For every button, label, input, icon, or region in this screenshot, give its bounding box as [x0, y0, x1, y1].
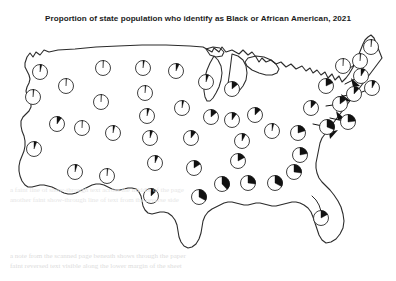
state-pie-me[interactable]: Maine: 2% — [364, 40, 379, 55]
state-pie-ar[interactable]: Arkansas: 16% — [187, 161, 202, 176]
pie-wedge-nc — [300, 148, 307, 156]
state-pie-wv[interactable]: West Virginia: 4% — [265, 124, 280, 139]
state-pie-ct[interactable]: Connecticut: 12% — [347, 87, 362, 102]
state-pie-al[interactable]: Alabama: 27% — [241, 176, 256, 191]
state-pie-az[interactable]: Arizona: 5% — [68, 165, 83, 180]
state-pie-ny[interactable]: New York: 18% — [319, 79, 334, 94]
state-pie-ri[interactable]: Rhode Island: 8% — [365, 81, 380, 96]
state-pie-wy[interactable]: Wyoming: 1% — [94, 95, 109, 110]
pie-wedge-al — [248, 176, 256, 184]
state-pie-pa[interactable]: Pennsylvania: 12% — [304, 101, 319, 116]
state-pie-mo[interactable]: Missouri: 11% — [184, 131, 199, 146]
state-pie-de[interactable]: Delaware: 23% — [341, 115, 356, 130]
state-pie-in[interactable]: Indiana: 10% — [225, 113, 240, 128]
us-map-figure: Proportion of state population who ident… — [0, 0, 396, 281]
coastal-detail — [312, 196, 321, 211]
page-title: Proportion of state population who ident… — [0, 13, 396, 24]
state-pie-co[interactable]: Colorado: 4% — [106, 126, 121, 141]
state-pie-mn[interactable]: Minnesota: 7% — [169, 64, 184, 79]
state-pie-nd[interactable]: North Dakota: 3% — [136, 61, 151, 76]
state-pie-markers-group: Washington: 4%Oregon: 2%California: 6%Ne… — [26, 40, 380, 226]
state-pie-ma[interactable]: Massachusetts: 9% — [354, 69, 369, 84]
state-pie-il[interactable]: Illinois: 14% — [204, 110, 219, 125]
state-pie-nm[interactable]: New Mexico: 2% — [100, 169, 115, 184]
state-pie-nh[interactable]: New Hampshire: 2% — [353, 54, 368, 69]
state-pie-oh[interactable]: Ohio: 13% — [248, 108, 263, 123]
state-pie-wi[interactable]: Wisconsin: 6% — [199, 75, 214, 90]
state-pie-nv[interactable]: Nevada: 10% — [50, 117, 65, 132]
great-lakes-outline — [204, 47, 279, 101]
us-map-svg: Washington: 4%Oregon: 2%California: 6%Ne… — [0, 0, 396, 281]
state-pie-ok[interactable]: Oklahoma: 7% — [148, 156, 163, 171]
state-pie-nj[interactable]: New Jersey: 15% — [333, 97, 348, 112]
state-pie-ky[interactable]: Kentucky: 8% — [235, 134, 250, 149]
state-pie-or[interactable]: Oregon: 2% — [26, 90, 41, 105]
state-pie-ms[interactable]: Mississippi: 38% — [215, 177, 230, 192]
state-pie-id[interactable]: Idaho: 1% — [59, 79, 74, 94]
pie-wedge-de — [348, 115, 355, 123]
state-pie-va[interactable]: Virginia: 20% — [291, 126, 306, 141]
state-pie-la[interactable]: Louisiana: 33% — [192, 190, 207, 205]
state-pie-sc[interactable]: South Carolina: 27% — [287, 165, 302, 180]
state-pie-tn[interactable]: Tennessee: 17% — [231, 154, 246, 169]
state-pie-sd[interactable]: South Dakota: 2% — [138, 86, 153, 101]
state-pie-ga[interactable]: Georgia: 33% — [268, 176, 283, 191]
state-pie-tx[interactable]: Texas: 13% — [144, 189, 159, 204]
state-pie-fl[interactable]: Florida: 17% — [314, 211, 329, 226]
state-pie-ia[interactable]: Iowa: 4% — [175, 101, 190, 116]
state-pie-nc[interactable]: North Carolina: 22% — [293, 148, 308, 163]
state-pie-ne[interactable]: Nebraska: 5% — [140, 109, 155, 124]
state-pie-ut[interactable]: Utah: 1% — [75, 121, 90, 136]
state-pie-mt[interactable]: Montana: 1% — [96, 61, 111, 76]
state-pie-md[interactable]: Maryland: 31% — [320, 120, 335, 135]
state-pie-vt[interactable]: Vermont: 1% — [336, 59, 351, 74]
state-pie-wa[interactable]: Washington: 4% — [33, 65, 48, 80]
chesapeake-detail — [312, 196, 321, 211]
pie-wedge-sc — [294, 165, 302, 173]
state-pie-mi[interactable]: Michigan: 14% — [225, 82, 240, 97]
state-pie-ks[interactable]: Kansas: 6% — [143, 131, 158, 146]
state-pie-ca[interactable]: California: 6% — [27, 142, 42, 157]
